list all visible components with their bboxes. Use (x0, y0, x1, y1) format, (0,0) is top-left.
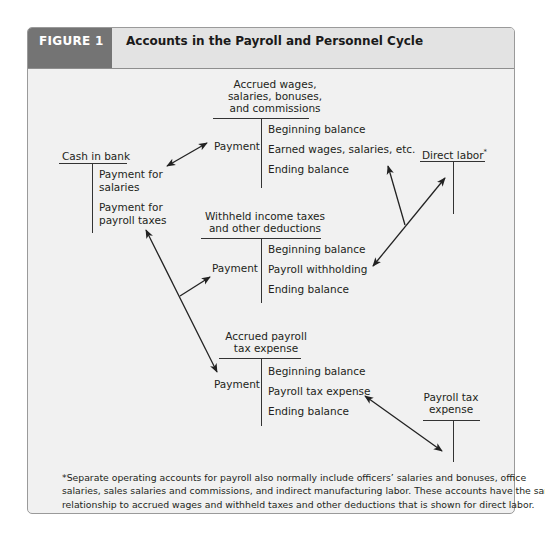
flow-arrows (0, 0, 545, 541)
arrow-cash-to-accrued-wages (167, 143, 207, 166)
footnote-line: salaries, sales salaries and commissions… (62, 484, 522, 497)
footnote-line: relationship to accrued wages and withhe… (62, 498, 522, 511)
footnote-line: *Separate operating accounts for payroll… (62, 471, 522, 484)
arrow-direct-labor-to-withheld (373, 178, 445, 266)
arrow-payroll-tax-expense (365, 396, 442, 451)
arrow-branch-to-earned-wages (388, 166, 405, 225)
footnote: *Separate operating accounts for payroll… (62, 471, 522, 511)
arrow-branch-to-withheld (180, 277, 210, 296)
arrow-cash-to-payroll-tax (146, 230, 217, 372)
